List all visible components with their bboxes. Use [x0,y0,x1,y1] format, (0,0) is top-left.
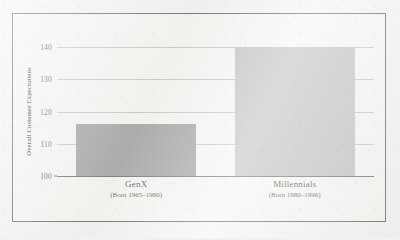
y-axis-title-label: Overall Customer Expectations [25,67,32,156]
gridline-100 [57,176,374,177]
bar-genx[interactable] [76,124,196,176]
plot-area: 100110120130140GenX(Born 1965–1980)Mille… [57,47,374,176]
y-tick-label-140: 140 [40,43,52,52]
y-tick-label-130: 130 [40,75,52,84]
x-category-label-genx: GenX(Born 1965–1980) [57,179,216,199]
x-category-name: Millennials [216,179,375,189]
x-category-name: GenX [57,179,216,189]
bar-millennials[interactable] [235,47,355,176]
y-tick-mark-100 [54,176,57,177]
y-tick-label-110: 110 [40,139,52,148]
x-category-sublabel: (Born 1980–1996) [216,191,375,199]
y-tick-label-120: 120 [40,107,52,116]
y-tick-label-100: 100 [40,172,52,181]
x-category-label-millennials: Millennials(Born 1980–1996) [216,179,375,199]
y-axis-title: Overall Customer Expectations [22,47,34,176]
x-category-sublabel: (Born 1965–1980) [57,191,216,199]
